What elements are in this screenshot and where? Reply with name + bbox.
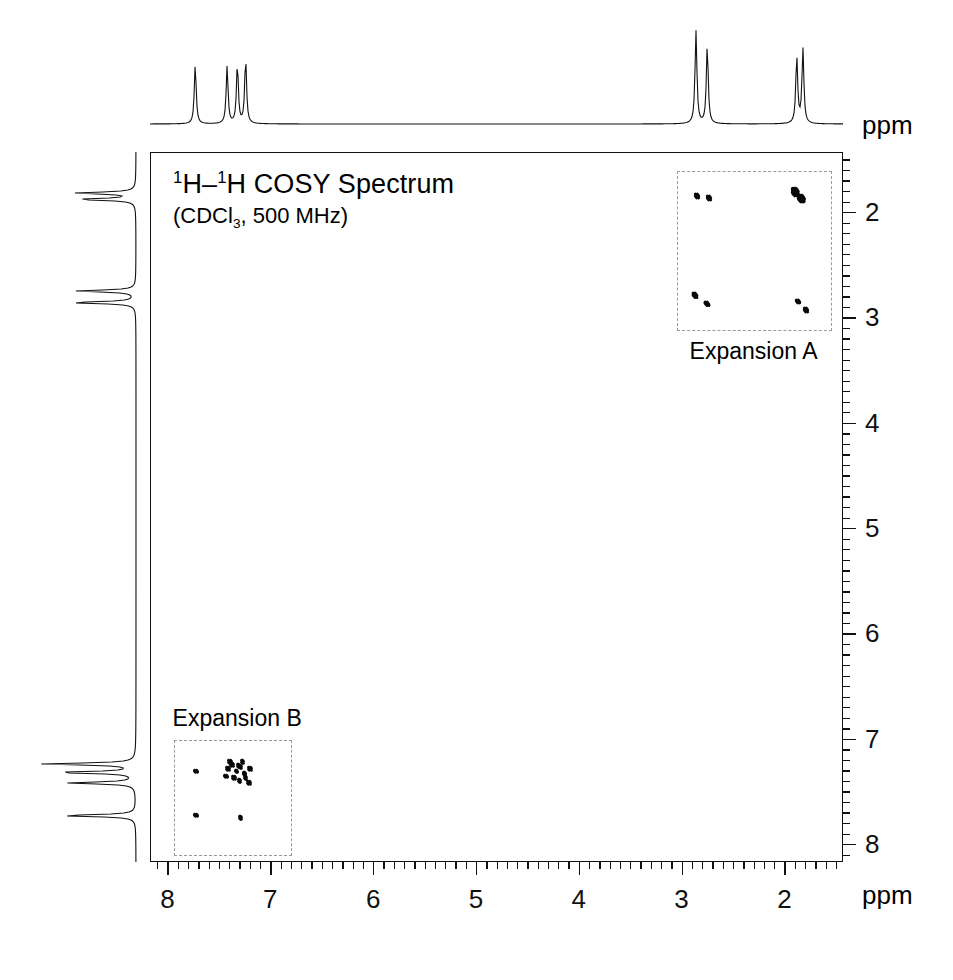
expansion-a-label: Expansion A bbox=[690, 338, 818, 365]
cosy-spectrum-figure: 1H–1H COSY Spectrum (CDCl3, 500 MHz) Exp… bbox=[0, 0, 953, 980]
x-tick-minor bbox=[743, 862, 744, 869]
x-tick-minor bbox=[568, 862, 569, 869]
y-tick-minor bbox=[843, 781, 850, 782]
x-tick-minor bbox=[291, 862, 292, 869]
y-tick-major bbox=[843, 423, 856, 424]
y-tick-minor bbox=[843, 391, 850, 392]
x-tick-minor bbox=[198, 862, 199, 869]
y-tick-minor bbox=[843, 665, 850, 666]
y-tick-minor bbox=[843, 486, 850, 487]
x-tick-minor bbox=[610, 862, 611, 869]
x-tick-minor bbox=[209, 862, 210, 869]
x-tick-minor bbox=[281, 862, 282, 869]
x-tick-minor bbox=[497, 862, 498, 869]
x-tick-minor bbox=[702, 862, 703, 869]
x-tick-minor bbox=[754, 862, 755, 869]
x-tick-minor bbox=[527, 862, 528, 869]
y-tick-label: 4 bbox=[865, 407, 879, 438]
y-tick-minor bbox=[843, 602, 850, 603]
y-tick-minor bbox=[843, 676, 850, 677]
x-tick-major bbox=[682, 862, 683, 875]
x-tick-minor bbox=[486, 862, 487, 869]
y-tick-minor bbox=[843, 433, 850, 434]
expansion-b-label: Expansion B bbox=[173, 705, 302, 732]
x-tick-major bbox=[784, 862, 785, 875]
x-tick-minor bbox=[353, 862, 354, 869]
y-tick-label: 3 bbox=[865, 302, 879, 333]
y-tick-minor bbox=[843, 855, 850, 856]
x-tick-label: 5 bbox=[469, 884, 483, 915]
y-tick-minor bbox=[843, 454, 850, 455]
y-tick-major bbox=[843, 633, 856, 634]
y-tick-minor bbox=[843, 360, 850, 361]
top-trace-path bbox=[150, 30, 843, 124]
expansion-box-b[interactable] bbox=[174, 740, 292, 856]
x-tick-minor bbox=[322, 862, 323, 869]
x-tick-major bbox=[579, 862, 580, 875]
x-tick-minor bbox=[260, 862, 261, 869]
x-tick-minor bbox=[250, 862, 251, 869]
x-tick-label: 6 bbox=[366, 884, 380, 915]
x-tick-minor bbox=[692, 862, 693, 869]
x-tick-minor bbox=[630, 862, 631, 869]
y-tick-minor bbox=[843, 286, 850, 287]
x-tick-minor bbox=[394, 862, 395, 869]
y-tick-minor bbox=[843, 654, 850, 655]
x-tick-label: 7 bbox=[263, 884, 277, 915]
left-1d-projection bbox=[30, 152, 148, 862]
y-tick-minor bbox=[843, 570, 850, 571]
x-tick-minor bbox=[342, 862, 343, 869]
x-tick-minor bbox=[538, 862, 539, 869]
y-tick-minor bbox=[843, 328, 850, 329]
x-tick-label: 4 bbox=[572, 884, 586, 915]
expansion-box-a[interactable] bbox=[677, 171, 831, 331]
y-tick-minor bbox=[843, 812, 850, 813]
x-tick-minor bbox=[301, 862, 302, 869]
y-tick-minor bbox=[843, 265, 850, 266]
x-tick-minor bbox=[425, 862, 426, 869]
left-trace-path bbox=[41, 152, 136, 862]
y-tick-minor bbox=[843, 233, 850, 234]
y-tick-minor bbox=[843, 496, 850, 497]
x-tick-minor bbox=[774, 862, 775, 869]
x-tick-minor bbox=[723, 862, 724, 869]
x-tick-minor bbox=[455, 862, 456, 869]
y-tick-minor bbox=[843, 402, 850, 403]
y-tick-major bbox=[843, 844, 856, 845]
y-tick-minor bbox=[843, 202, 850, 203]
y-tick-minor bbox=[843, 549, 850, 550]
y-tick-minor bbox=[843, 170, 850, 171]
x-tick-minor bbox=[589, 862, 590, 869]
x-tick-minor bbox=[507, 862, 508, 869]
y-tick-minor bbox=[843, 465, 850, 466]
x-tick-major bbox=[167, 862, 168, 875]
y-tick-label: 2 bbox=[865, 197, 879, 228]
x-tick-major bbox=[270, 862, 271, 875]
x-tick-minor bbox=[712, 862, 713, 869]
y-tick-major bbox=[843, 212, 856, 213]
y-tick-major bbox=[843, 317, 856, 318]
y-tick-major bbox=[843, 739, 856, 740]
x-tick-minor bbox=[764, 862, 765, 869]
y-tick-minor bbox=[843, 338, 850, 339]
y-tick-minor bbox=[843, 770, 850, 771]
y-tick-label: 6 bbox=[865, 618, 879, 649]
x-tick-minor bbox=[445, 862, 446, 869]
x-axis-unit-label: ppm bbox=[862, 880, 913, 911]
x-tick-minor bbox=[363, 862, 364, 869]
x-tick-label: 2 bbox=[777, 884, 791, 915]
x-tick-minor bbox=[414, 862, 415, 869]
spectrum-plot-area[interactable]: 1H–1H COSY Spectrum (CDCl3, 500 MHz) bbox=[150, 152, 843, 862]
y-tick-minor bbox=[843, 623, 850, 624]
x-tick-minor bbox=[640, 862, 641, 869]
x-tick-minor bbox=[795, 862, 796, 869]
top-1d-projection bbox=[150, 18, 843, 136]
y-tick-minor bbox=[843, 581, 850, 582]
x-tick-minor bbox=[435, 862, 436, 869]
y-axis-unit-label: ppm bbox=[862, 110, 913, 141]
x-tick-minor bbox=[239, 862, 240, 869]
y-tick-minor bbox=[843, 791, 850, 792]
y-tick-major bbox=[843, 528, 856, 529]
y-tick-minor bbox=[843, 644, 850, 645]
y-tick-minor bbox=[843, 475, 850, 476]
